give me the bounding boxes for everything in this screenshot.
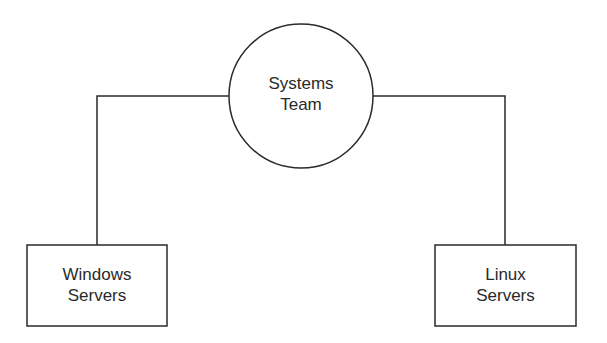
windows-servers-label-line2: Servers xyxy=(27,285,167,306)
systems-team-node-label: Systems Team xyxy=(229,73,373,115)
connector-root-linux xyxy=(373,96,505,245)
systems-team-label-line2: Team xyxy=(229,94,373,115)
connector-root-windows xyxy=(97,96,229,245)
linux-servers-node-label: Linux Servers xyxy=(435,264,576,306)
windows-servers-node-label: Windows Servers xyxy=(27,264,167,306)
linux-servers-label-line1: Linux xyxy=(435,264,576,285)
systems-team-label-line1: Systems xyxy=(229,73,373,94)
windows-servers-label-line1: Windows xyxy=(27,264,167,285)
linux-servers-label-line2: Servers xyxy=(435,285,576,306)
